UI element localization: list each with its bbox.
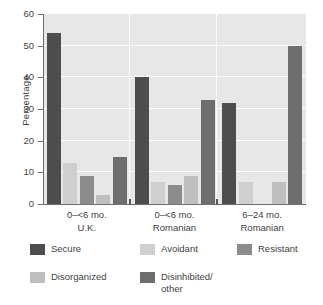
y-axis-tick-label: 40: [4, 72, 34, 81]
bar: [184, 176, 198, 205]
legend-label: Resistant: [258, 243, 298, 255]
y-axis-tick-label: 30: [4, 104, 34, 113]
legend-label: Disorganized: [51, 271, 106, 283]
bar: [272, 182, 286, 204]
legend-item[interactable]: Avoidant: [140, 243, 198, 255]
legend-item[interactable]: Disorganized: [30, 271, 106, 283]
bar: [239, 182, 253, 204]
y-axis-tick: [38, 77, 43, 78]
legend-swatch: [30, 244, 45, 255]
gridline: [43, 171, 306, 172]
legend-swatch: [30, 272, 45, 283]
x-axis-group-label: 6–24 mo.Romanian: [218, 209, 306, 234]
bar: [168, 185, 182, 204]
bar: [135, 77, 149, 204]
bar-chart-figure: Percentage 0102030405060 0–<6 mo.U.K.0–<…: [0, 0, 323, 305]
y-axis-tick-label: 50: [4, 41, 34, 50]
y-axis-tick: [38, 14, 43, 15]
x-axis-tick: [216, 199, 218, 205]
y-axis-tick: [38, 109, 43, 110]
legend-swatch: [140, 244, 155, 255]
y-axis-tick-label: 60: [4, 9, 34, 18]
y-axis-tick: [38, 141, 43, 142]
bar: [222, 103, 236, 204]
chart-legend: SecureAvoidantResistantDisorganizedDisin…: [0, 243, 323, 305]
legend-swatch: [140, 272, 155, 283]
legend-item[interactable]: Resistant: [237, 243, 298, 255]
legend-swatch: [237, 244, 252, 255]
y-axis-tick: [38, 46, 43, 47]
legend-label: Avoidant: [161, 243, 198, 255]
y-axis-tick: [38, 204, 43, 205]
y-axis-line: [43, 14, 44, 205]
bar: [113, 157, 127, 205]
x-axis-group-label-line: Romanian: [131, 222, 219, 235]
x-axis-group-label-line: U.K.: [43, 222, 131, 235]
x-axis-group-label-line: 0–<6 mo.: [131, 209, 219, 222]
bar: [96, 195, 110, 205]
x-axis-line: [43, 204, 306, 205]
group-separator: [216, 14, 217, 204]
bar: [80, 176, 94, 205]
legend-item[interactable]: Secure: [30, 243, 81, 255]
gridline: [43, 108, 306, 109]
legend-item[interactable]: Disinhibited/ other: [140, 271, 213, 295]
y-axis-tick-label: 0: [4, 199, 34, 208]
plot-area: [43, 14, 306, 204]
bar: [63, 163, 77, 204]
y-axis-tick: [38, 172, 43, 173]
gridline: [43, 45, 306, 46]
bar: [288, 46, 302, 204]
gridline: [43, 76, 306, 77]
gridline: [43, 13, 306, 14]
legend-label: Secure: [51, 243, 81, 255]
y-axis-tick-label: 20: [4, 136, 34, 145]
bar: [47, 33, 61, 204]
group-separator: [129, 14, 130, 204]
x-axis-tick: [129, 199, 131, 205]
legend-label: Disinhibited/ other: [161, 271, 213, 295]
x-axis-group-label: 0–<6 mo.Romanian: [131, 209, 219, 234]
gridline: [43, 140, 306, 141]
x-axis-group-label-line: 6–24 mo.: [218, 209, 306, 222]
bar: [201, 100, 215, 205]
x-axis-group-label: 0–<6 mo.U.K.: [43, 209, 131, 234]
x-axis-group-label-line: 0–<6 mo.: [43, 209, 131, 222]
y-axis-title: Percentage: [20, 31, 31, 171]
x-axis-group-label-line: Romanian: [218, 222, 306, 235]
bar: [151, 182, 165, 204]
y-axis-tick-label: 10: [4, 167, 34, 176]
